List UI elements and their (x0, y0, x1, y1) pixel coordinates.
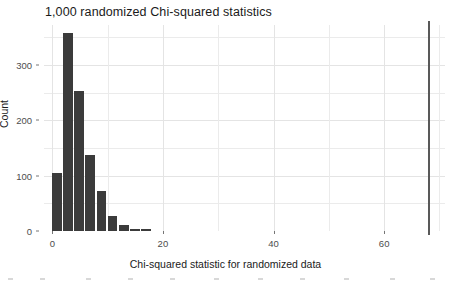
x-tick-label: 0 (50, 238, 55, 249)
y-tick-mark (36, 231, 39, 232)
y-tick-label: 100 (16, 170, 32, 181)
artifact-mark (214, 278, 219, 280)
artifact-mark (86, 278, 91, 280)
x-tick-label: 40 (268, 238, 279, 249)
histogram-bar (108, 216, 118, 232)
histogram-bar (74, 91, 84, 231)
artifact-mark (390, 278, 395, 280)
gridline-vertical-minor (439, 25, 440, 231)
artifact-mark (258, 278, 263, 280)
gridline-vertical-major (274, 25, 275, 231)
observed-statistic-line-icon (428, 21, 429, 235)
x-axis-title: Chi-squared statistic for randomized dat… (0, 258, 451, 270)
artifact-mark (170, 278, 175, 280)
x-tick-mark (163, 231, 164, 234)
chart-title: 1,000 randomized Chi-squared statistics (45, 5, 272, 19)
y-tick-mark (36, 64, 39, 65)
x-tick-mark (52, 231, 53, 234)
artifact-mark (8, 278, 13, 280)
artifact-mark (40, 278, 45, 280)
x-tick-mark (384, 231, 385, 234)
x-tick-label: 20 (158, 238, 169, 249)
histogram-bar (52, 173, 62, 231)
gridline-vertical-minor (108, 25, 109, 231)
x-axis-ticks: 0204060 (44, 231, 445, 257)
y-tick-label: 200 (16, 115, 32, 126)
y-axis-title: Count (0, 100, 10, 128)
x-tick-mark (274, 231, 275, 234)
y-tick-label: 0 (27, 226, 32, 237)
y-tick-mark (36, 120, 39, 121)
artifact-mark (430, 278, 435, 280)
chi-squared-histogram-figure: 1,000 randomized Chi-squared statistics … (0, 0, 451, 286)
gridline-vertical-minor (329, 25, 330, 231)
y-tick-label: 300 (16, 59, 32, 70)
gridline-vertical-minor (218, 25, 219, 231)
plot-panel (44, 25, 445, 231)
artifact-mark (300, 278, 305, 280)
gridline-vertical-major (384, 25, 385, 231)
artifact-mark (128, 278, 133, 280)
y-axis-ticks: 0100200300 (0, 25, 39, 231)
page-edge-artifact (0, 276, 451, 286)
gridline-vertical-major (163, 25, 164, 231)
histogram-bar (63, 33, 73, 231)
y-tick-mark (36, 175, 39, 176)
x-tick-label: 60 (379, 238, 390, 249)
histogram-bar (85, 155, 95, 231)
artifact-mark (344, 278, 349, 280)
histogram-bar (97, 191, 107, 231)
